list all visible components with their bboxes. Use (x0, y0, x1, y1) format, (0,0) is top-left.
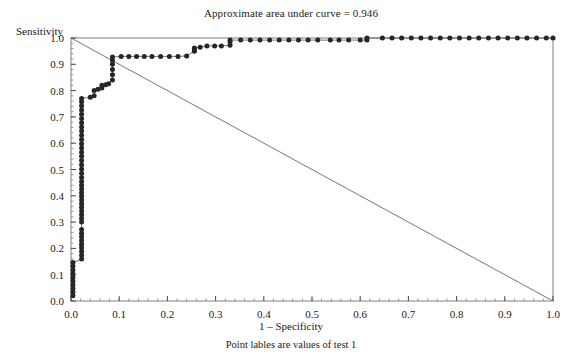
chart-footnote: Point lables are values of test 1 (0, 339, 582, 350)
y-tick-label: 0.5 (50, 164, 64, 176)
roc-point-marker (306, 38, 311, 43)
x-tick-label: 0.8 (450, 308, 464, 320)
roc-point-marker (228, 38, 233, 43)
roc-point-marker (110, 67, 115, 72)
y-tick-label: 0.2 (50, 242, 64, 254)
roc-point-marker (457, 36, 462, 41)
roc-point-marker (158, 54, 163, 59)
roc-point-marker (238, 38, 243, 43)
y-tick-label: 0.4 (50, 190, 64, 202)
y-tick-label: 0.7 (50, 111, 64, 123)
roc-point-marker (176, 54, 181, 59)
roc-point-marker (192, 45, 197, 50)
roc-point-marker (496, 36, 501, 41)
x-tick-label: 0.5 (305, 308, 319, 320)
roc-point-marker (212, 43, 217, 48)
roc-point-marker (92, 93, 97, 98)
roc-point-marker (438, 36, 443, 41)
roc-point-marker (315, 38, 320, 43)
roc-point-marker (119, 54, 124, 59)
y-tick-label: 0.0 (50, 295, 64, 307)
roc-point-marker (277, 38, 282, 43)
roc-point-marker (184, 53, 189, 58)
x-tick-label: 0.9 (498, 308, 512, 320)
y-tick-label: 0.8 (50, 85, 64, 97)
roc-point-marker (286, 38, 291, 43)
roc-point-marker (409, 36, 414, 41)
roc-point-marker (134, 54, 139, 59)
roc-point-marker (248, 38, 253, 43)
roc-point-marker (364, 36, 369, 41)
x-tick-label: 0.7 (402, 308, 416, 320)
roc-point-marker (524, 36, 529, 41)
roc-point-marker (358, 38, 363, 43)
roc-curve-line (73, 38, 553, 296)
roc-point-marker (447, 36, 452, 41)
roc-point-marker (328, 38, 333, 43)
roc-point-marker (467, 36, 472, 41)
x-tick-label: 0.6 (353, 308, 367, 320)
roc-point-marker (70, 260, 75, 265)
roc-point-marker (476, 36, 481, 41)
roc-point-marker (296, 38, 301, 43)
reference-diagonal-line (71, 38, 553, 301)
roc-point-marker (486, 36, 491, 41)
roc-point-marker (126, 54, 131, 59)
roc-point-marker (336, 38, 341, 43)
roc-point-marker (418, 36, 423, 41)
roc-plot-area: 0.00.10.20.30.40.50.60.70.80.91.00.00.10… (0, 0, 582, 358)
roc-chart-page: Approximate area under curve = 0.946 Sen… (0, 0, 582, 358)
roc-point-marker (204, 43, 209, 48)
roc-polyline (73, 38, 553, 296)
y-tick-label: 0.1 (50, 269, 64, 281)
x-tick-label: 0.0 (64, 308, 78, 320)
roc-point-marker (110, 72, 115, 77)
roc-point-marker (257, 38, 262, 43)
roc-point-marker (380, 36, 385, 41)
y-tick-label: 1.0 (50, 32, 64, 44)
y-tick-label: 0.9 (50, 58, 64, 70)
roc-point-marker (142, 54, 147, 59)
roc-point-marker (219, 43, 224, 48)
roc-point-marker (110, 78, 115, 83)
roc-point-marker (346, 38, 351, 43)
roc-point-marker (267, 38, 272, 43)
roc-point-marker (79, 96, 84, 101)
roc-point-marker (544, 36, 549, 41)
roc-point-marker (515, 36, 520, 41)
axis-tick-labels: 0.00.10.20.30.40.50.60.70.80.91.00.00.10… (50, 32, 560, 320)
roc-point-marker (505, 36, 510, 41)
roc-point-marker (428, 36, 433, 41)
roc-point-marker (79, 227, 84, 232)
roc-point-marker (110, 54, 115, 59)
y-tick-label: 0.3 (50, 216, 64, 228)
roc-data-points (70, 36, 555, 299)
roc-point-marker (534, 36, 539, 41)
diagonal-reference-line (71, 38, 553, 301)
x-axis-label: 1 – Specificity (0, 320, 582, 332)
x-tick-label: 1.0 (546, 308, 560, 320)
roc-point-marker (390, 36, 395, 41)
y-tick-label: 0.6 (50, 137, 64, 149)
roc-point-marker (551, 36, 556, 41)
roc-point-marker (399, 36, 404, 41)
x-tick-label: 0.1 (112, 308, 126, 320)
roc-point-marker (198, 45, 203, 50)
x-tick-label: 0.3 (209, 308, 223, 320)
roc-point-marker (167, 54, 172, 59)
roc-point-marker (149, 54, 154, 59)
roc-point-marker (106, 81, 111, 86)
x-tick-label: 0.4 (257, 308, 271, 320)
x-tick-label: 0.2 (161, 308, 175, 320)
